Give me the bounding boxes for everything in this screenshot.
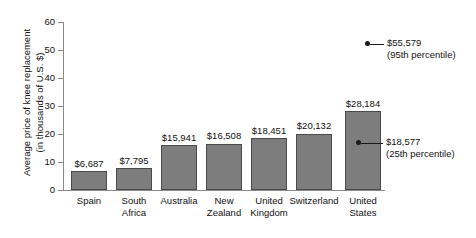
y-axis-label-50-text: 50 <box>44 44 55 55</box>
percentile-95-leader-line <box>370 44 384 45</box>
bar-new-zealand[interactable] <box>206 144 242 190</box>
bar-spain[interactable] <box>71 171 107 190</box>
percentile-25-note: (25th percentile) <box>386 148 455 160</box>
y-axis-tick-30 <box>58 106 63 107</box>
data-label-united-states: $28,184 <box>333 98 393 109</box>
bar-australia[interactable] <box>161 145 197 190</box>
y-axis-tick-40 <box>58 78 63 79</box>
y-axis-tick-50 <box>58 50 63 51</box>
x-axis-label-united-states-line-2: States <box>333 207 393 219</box>
data-label-switzerland: $20,132 <box>284 120 344 131</box>
y-axis-label-30-text: 30 <box>44 100 55 111</box>
y-axis-tick-60 <box>58 22 63 23</box>
y-axis-tick-20 <box>58 134 63 135</box>
bar-united-states[interactable] <box>345 111 381 190</box>
percentile-25-leader-line <box>361 143 383 144</box>
percentile-95-note: (95th percentile) <box>387 49 456 61</box>
percentile-95-value: $55,579 <box>387 37 456 49</box>
data-label-south-africa: $7,795 <box>106 155 162 166</box>
y-axis-label-40-text: 40 <box>44 72 55 83</box>
y-axis-label-60-text: 60 <box>44 16 55 27</box>
percentile-25-annotation: $18,577 (25th percentile) <box>386 136 455 159</box>
bar-switzerland[interactable] <box>296 134 332 190</box>
percentile-25-value: $18,577 <box>386 136 455 148</box>
x-axis-line <box>63 190 385 191</box>
x-axis-label-united-kingdom-line-2: Kingdom <box>239 207 299 219</box>
y-axis-title-line-1: Average price of knee replacement <box>21 8 34 198</box>
y-axis-label-20-text: 20 <box>44 128 55 139</box>
x-axis-label-united-states: United States <box>333 195 393 218</box>
percentile-95-annotation: $55,579 (95th percentile) <box>387 37 456 60</box>
bar-chart: Average price of knee replacement (in th… <box>0 0 476 238</box>
bar-south-africa[interactable] <box>116 168 152 190</box>
y-axis-tick-0 <box>58 190 63 191</box>
y-axis-title: Average price of knee replacement (in th… <box>21 8 46 198</box>
y-axis-label-0-text: 0 <box>50 184 55 195</box>
x-axis-label-south-africa-line-2: Africa <box>106 207 162 219</box>
y-axis-label-10-text: 10 <box>44 156 55 167</box>
x-axis-label-united-states-line-1: United <box>333 195 393 207</box>
bar-united-kingdom[interactable] <box>251 138 287 190</box>
